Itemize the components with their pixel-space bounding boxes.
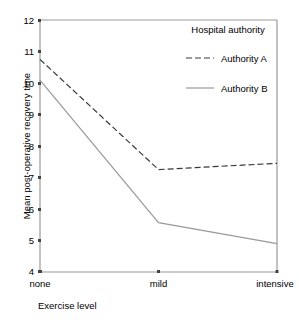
series-line-authority-a (40, 59, 277, 169)
x-tick-label-intensive: intensive (256, 278, 294, 289)
legend-title: Hospital authority (191, 24, 265, 35)
y-tick-label: 6 (29, 204, 34, 215)
y-tick-label: 10 (23, 78, 34, 89)
y-tick-label: 8 (29, 141, 34, 152)
x-tick-label-mild: mild (150, 278, 167, 289)
y-tick-label: 7 (29, 172, 34, 183)
legend-label-authority-a: Authority A (221, 53, 268, 64)
series-line-authority-b (40, 80, 277, 243)
y-tick-label: 5 (29, 235, 34, 246)
legend-label-authority-b: Authority B (221, 83, 267, 94)
y-axis-tick-labels: 12 11 10 9 8 7 6 5 4 (23, 15, 34, 277)
y-tick-label: 4 (29, 266, 34, 277)
x-axis-tick-labels: none mild intensive (29, 278, 293, 289)
chart-page: Mean post-operative recovery time Exerci… (0, 0, 299, 325)
x-tick-label-none: none (29, 278, 50, 289)
y-tick-label: 12 (23, 15, 34, 26)
line-chart-plot: 12 11 10 9 8 7 6 5 4 none mild intensive (0, 0, 299, 325)
y-tick-label: 11 (24, 46, 34, 57)
legend: Hospital authority Authority A Authority… (186, 24, 268, 94)
y-tick-label: 9 (29, 109, 34, 120)
